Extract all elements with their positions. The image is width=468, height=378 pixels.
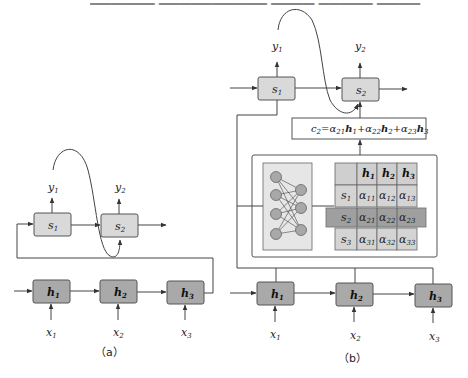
svg-text:x3: x3 <box>181 326 192 340</box>
caption-a: （a） <box>95 346 124 359</box>
svg-text:y1: y1 <box>271 40 283 54</box>
svg-text:x3: x3 <box>429 330 440 344</box>
caption-b: （b） <box>338 352 367 365</box>
encoder-h2-a: h2 x2 <box>100 280 137 340</box>
encoder-h3-b: h3 x3 <box>415 284 452 344</box>
panel-b: s1 y1 s2 y2 c2=α21h1+α22h2+α23h3 <box>230 9 452 365</box>
encoder-h1-a: h1 x1 <box>33 280 70 340</box>
svg-text:y1: y1 <box>47 181 59 195</box>
svg-text:x1: x1 <box>46 326 57 340</box>
svg-text:y2: y2 <box>114 181 126 195</box>
encoder-h3-a: h3 x3 <box>167 281 204 340</box>
diagram-canvas: s1 y1 s2 y2 h1 x1 h2 x2 <box>0 0 468 378</box>
decoder-s1-b: s1 y1 <box>258 40 295 100</box>
attention-weight-table: h1 h2 h3 s1 α11 α12 α13 s2 α21 α22 α23 <box>326 163 426 250</box>
neural-network-icon <box>263 163 312 250</box>
encoder-h2-b: h2 x2 <box>336 283 373 343</box>
attention-curve-a <box>53 149 120 257</box>
encoder-h1-b: h1 x1 <box>257 282 294 342</box>
panel-a: s1 y1 s2 y2 h1 x1 h2 x2 <box>14 149 213 359</box>
svg-text:y2: y2 <box>354 40 366 54</box>
svg-text:x1: x1 <box>270 328 281 342</box>
decoder-s1-a: s1 y1 <box>34 181 71 236</box>
decoder-s2-a: s2 y2 <box>101 181 138 237</box>
svg-text:x2: x2 <box>113 326 124 340</box>
decoder-s2-b: s2 y2 <box>342 40 379 101</box>
context-formula-box: c2=α21h1+α22h2+α23h3 <box>292 118 429 139</box>
svg-text:x2: x2 <box>350 329 361 343</box>
